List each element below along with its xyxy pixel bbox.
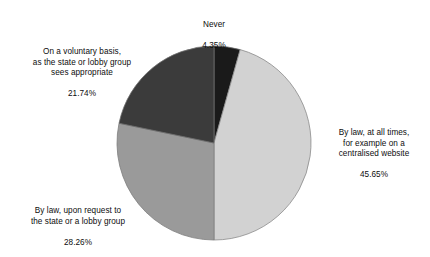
pie-label-never: Never 4.35% bbox=[178, 10, 250, 62]
pie-label-by-law-upon-request: By law, upon request to the state or a l… bbox=[2, 196, 154, 257]
pie-label-by-law-upon-request-text: By law, upon request to the state or a l… bbox=[2, 206, 154, 227]
pie-label-voluntary-basis-value: 21.74% bbox=[6, 89, 158, 99]
pie-label-voluntary-basis-text: On a voluntary basis, as the state or lo… bbox=[6, 47, 158, 78]
pie-label-by-law-upon-request-value: 28.26% bbox=[2, 238, 154, 248]
pie-chart-figure: Never 4.35% On a voluntary basis, as the… bbox=[0, 0, 430, 257]
pie-label-voluntary-basis: On a voluntary basis, as the state or lo… bbox=[6, 37, 158, 110]
pie-label-never-text: Never bbox=[178, 20, 250, 30]
pie-label-never-value: 4.35% bbox=[178, 41, 250, 51]
pie-label-by-law-all-times-value: 45.65% bbox=[322, 170, 426, 180]
pie-label-by-law-all-times: By law, at all times, for example on a c… bbox=[322, 118, 426, 191]
pie-label-by-law-all-times-text: By law, at all times, for example on a c… bbox=[322, 128, 426, 159]
